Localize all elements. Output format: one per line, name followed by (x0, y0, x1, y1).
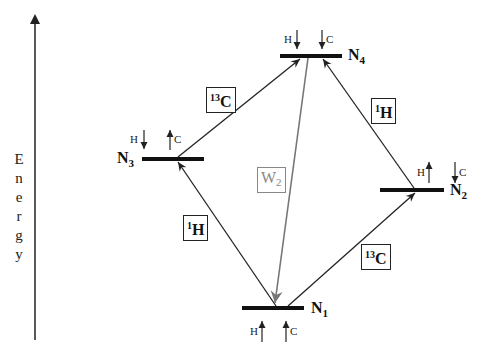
spin-label-N2-H: H (417, 166, 425, 178)
transition-N3-N4 (178, 59, 300, 157)
axis-letter: g (12, 226, 26, 245)
transition-label-N1-N3: 1H (183, 215, 208, 241)
transition-label-W2: W2 (257, 167, 286, 193)
spin-label-N4-H: H (284, 33, 292, 45)
spin-label-N1-C: C (290, 325, 297, 337)
energy-diagram (0, 0, 488, 358)
level-label-N3: N3 (117, 149, 134, 169)
spin-label-N1-H: H (250, 325, 258, 337)
transition-N1-N2 (288, 193, 415, 306)
spin-label-N3-H: H (130, 133, 138, 145)
axis-letter: E (12, 150, 26, 169)
level-label-N4: N4 (348, 46, 365, 66)
axis-letter: e (12, 188, 26, 207)
energy-axis (30, 14, 40, 340)
level-label-N1: N1 (311, 299, 328, 319)
transition-label-N2-N4: 1H (371, 98, 396, 124)
spin-label-N4-C: C (326, 33, 333, 45)
transition-N2-N4 (323, 59, 414, 188)
axis-letter: r (12, 207, 26, 226)
transition-label-N1-N2: 13C (361, 244, 391, 270)
energy-axis-label: E n e r g y (12, 150, 26, 264)
level-label-N2: N2 (450, 181, 467, 201)
axis-letter: n (12, 169, 26, 188)
transition-label-N3-N4: 13C (206, 87, 236, 113)
spin-label-N2-C: C (459, 166, 466, 178)
spin-label-N3-C: C (174, 133, 181, 145)
axis-letter: y (12, 245, 26, 264)
axis-arrowhead-icon (30, 14, 40, 24)
